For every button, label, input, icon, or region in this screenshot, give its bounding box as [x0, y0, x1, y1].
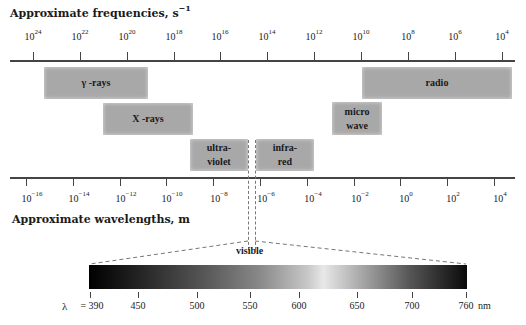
visible-tick-label: 700	[405, 300, 420, 311]
visible-tick-label: 450	[131, 300, 146, 311]
visible-tick-label: 550	[243, 300, 258, 311]
visible-tick-label: 650	[350, 300, 365, 311]
visible-tick-mark	[412, 292, 413, 298]
visible-tick-label: 760	[459, 300, 474, 311]
visible-tick-mark	[357, 292, 358, 298]
visible-tick-mark	[90, 292, 91, 298]
visible-tick-mark	[197, 292, 198, 298]
visible-label: visible	[236, 245, 263, 256]
lambda-symbol: λ	[62, 300, 67, 312]
visible-tick-label: 500	[190, 300, 205, 311]
visible-tick-mark	[299, 292, 300, 298]
visible-tick-mark	[250, 292, 251, 298]
visible-spectrum-bar	[89, 265, 467, 289]
visible-tick-mark	[466, 292, 467, 298]
visible-tick-label: 600	[292, 300, 307, 311]
visible-unit: nm	[478, 300, 491, 311]
visible-tick-label: = 390	[80, 300, 103, 311]
visible-tick-mark	[138, 292, 139, 298]
